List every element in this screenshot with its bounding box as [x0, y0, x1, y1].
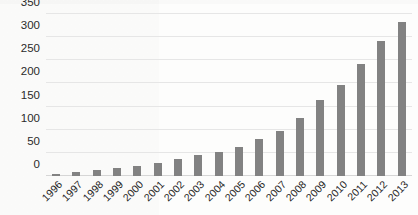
bar-slot	[46, 14, 66, 176]
x-axis-tick-label: 1996	[39, 178, 64, 203]
bar-slot	[392, 14, 412, 176]
y-axis-tick-label: 0	[0, 158, 40, 170]
bar	[296, 118, 304, 176]
bar	[316, 100, 324, 176]
bar-slot	[331, 14, 351, 176]
plot-area	[46, 14, 412, 176]
x-axis: 1996199719981999200020012002200320042005…	[46, 176, 412, 215]
bar	[113, 168, 121, 176]
y-axis-tick-label: 250	[0, 42, 40, 54]
bar	[377, 41, 385, 176]
y-axis-tick-label: 50	[0, 135, 40, 147]
bar	[398, 22, 406, 176]
y-axis-tick-label: 150	[0, 89, 40, 101]
bar-slot	[188, 14, 208, 176]
bar-slot	[290, 14, 310, 176]
bar	[337, 85, 345, 176]
x-axis-tick-slot: 2013	[392, 176, 412, 215]
bar	[133, 166, 141, 176]
bar	[357, 64, 365, 176]
bar	[276, 131, 284, 176]
bar	[235, 147, 243, 176]
y-axis-tick-label: 100	[0, 112, 40, 124]
bar	[154, 163, 162, 176]
bar-slot	[270, 14, 290, 176]
bar-slot	[351, 14, 371, 176]
bar-slot	[127, 14, 147, 176]
bar-slot	[209, 14, 229, 176]
bars-layer	[46, 14, 412, 176]
bar	[194, 155, 202, 176]
bar-slot	[66, 14, 86, 176]
bar-slot	[107, 14, 127, 176]
y-axis-tick-label: 350	[0, 0, 40, 8]
bar-slot	[310, 14, 330, 176]
y-axis-tick-label: 200	[0, 65, 40, 77]
bar-slot	[148, 14, 168, 176]
y-axis-tick-label: 300	[0, 19, 40, 31]
bar	[255, 139, 263, 176]
bar-chart-figure: 050100150200250300350 199619971998199920…	[0, 0, 418, 215]
bar	[215, 152, 223, 176]
bar	[174, 159, 182, 176]
bar-slot	[229, 14, 249, 176]
bar-slot	[371, 14, 391, 176]
bar-slot	[249, 14, 269, 176]
bar-slot	[168, 14, 188, 176]
bar-slot	[87, 14, 107, 176]
